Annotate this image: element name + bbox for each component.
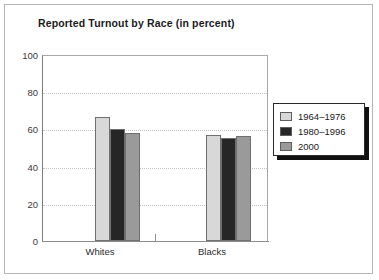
bar-group-blacks: [206, 56, 251, 241]
bar-group-whites: [95, 56, 140, 241]
legend-swatch-icon: [280, 142, 292, 151]
y-tick-label: 20: [8, 198, 38, 209]
bar: [95, 117, 110, 241]
x-axis-line: [42, 241, 269, 242]
bar: [110, 129, 125, 241]
y-tick-label: 0: [8, 236, 38, 247]
y-tick-label: 60: [8, 124, 38, 135]
bar: [236, 136, 251, 241]
chart-figure: Reported Turnout by Race (in percent) 02…: [0, 0, 379, 280]
y-tick-label: 100: [8, 50, 38, 61]
legend-swatch-icon: [280, 112, 292, 121]
bar: [221, 138, 236, 241]
legend-item-label: 1964–1976: [298, 111, 346, 122]
legend-item-label: 1980–1996: [298, 126, 346, 137]
bar: [125, 133, 140, 241]
y-tick-label: 80: [8, 87, 38, 98]
y-axis-ticks: 020406080100: [4, 55, 38, 241]
category-label-blacks: Blacks: [177, 246, 247, 257]
chart-title: Reported Turnout by Race (in percent): [38, 17, 235, 29]
category-label-whites: Whites: [65, 246, 135, 257]
legend-item: 1964–1976: [280, 109, 364, 123]
y-tick-label: 40: [8, 161, 38, 172]
legend-swatch-icon: [280, 127, 292, 136]
legend-item-label: 2000: [298, 141, 319, 152]
legend-item: 2000: [280, 139, 364, 153]
x-axis-center-tick: [155, 234, 156, 241]
plot-area: [42, 55, 268, 241]
bar: [206, 135, 221, 241]
chart-legend: 1964–1976 1980–1996 2000: [273, 103, 365, 156]
legend-item: 1980–1996: [280, 124, 364, 138]
